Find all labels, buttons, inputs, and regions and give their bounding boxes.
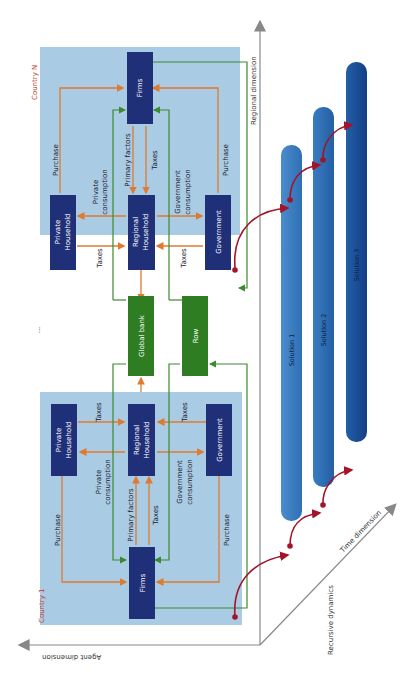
svg-text:Taxes: Taxes	[96, 248, 104, 269]
svg-text:Taxes: Taxes	[152, 505, 160, 526]
time-axis-label: Time dimension	[338, 509, 383, 555]
svg-text:consumption: consumption	[101, 169, 109, 214]
svg-text:...: ...	[34, 327, 42, 334]
svg-text:Taxes: Taxes	[95, 402, 103, 423]
country-1-panel: Country 1 Private Household Regional Hou…	[38, 392, 247, 625]
svg-text:Global bank: Global bank	[138, 314, 146, 357]
regional-axis-label: Regional dimension	[250, 56, 258, 125]
solution-2-label: Solution 2	[320, 314, 328, 347]
svg-text:Household: Household	[142, 213, 150, 250]
svg-text:Government: Government	[176, 460, 184, 504]
svg-text:Household: Household	[143, 421, 151, 458]
svg-text:Row: Row	[192, 328, 200, 343]
svg-text:Firms: Firms	[136, 78, 144, 97]
svg-text:consumption: consumption	[186, 459, 194, 504]
solutions: Solution 1 Solution 2 Solution 3	[281, 62, 367, 521]
middle-section: ... Global bank Row	[34, 296, 247, 392]
svg-text:Purchase: Purchase	[222, 144, 230, 176]
svg-text:Taxes: Taxes	[181, 402, 189, 423]
svg-text:Regional: Regional	[133, 425, 141, 455]
solution-2-bar	[313, 107, 334, 487]
solution-1-label: Solution 1	[288, 334, 296, 367]
svg-text:Government: Government	[216, 418, 224, 462]
country-1-label: Country 1	[38, 589, 46, 624]
svg-text:Household: Household	[64, 213, 72, 250]
cge-model-diagram: Regional dimension Agent dimension Time …	[0, 0, 413, 682]
solution-3-label: Solution 3	[353, 249, 361, 282]
svg-text:Private: Private	[54, 220, 62, 244]
svg-text:Purchase: Purchase	[52, 144, 60, 176]
svg-text:Taxes: Taxes	[151, 150, 159, 171]
svg-text:Government: Government	[174, 170, 182, 214]
agent-axis-label: Agent dimension	[42, 653, 101, 661]
recursive-dynamics-label: Recursive dynamics	[327, 585, 335, 655]
svg-text:Government: Government	[215, 210, 223, 254]
svg-text:consumption: consumption	[184, 169, 192, 214]
svg-text:Private: Private	[92, 180, 100, 204]
svg-text:Private: Private	[55, 428, 63, 452]
svg-text:Purchase: Purchase	[54, 514, 62, 546]
svg-text:Taxes: Taxes	[180, 248, 188, 269]
svg-text:Primary factors: Primary factors	[127, 488, 135, 542]
country-n-panel: Country N Firms Private Household Region…	[31, 47, 247, 300]
svg-text:Primary factors: Primary factors	[124, 133, 132, 187]
svg-text:Regional: Regional	[132, 217, 140, 247]
svg-text:Private: Private	[95, 470, 103, 494]
svg-text:Purchase: Purchase	[223, 514, 231, 546]
svg-text:Household: Household	[65, 421, 73, 458]
svg-text:consumption: consumption	[104, 459, 112, 504]
svg-text:Firms: Firms	[139, 573, 147, 592]
country-n-label: Country N	[31, 65, 39, 100]
